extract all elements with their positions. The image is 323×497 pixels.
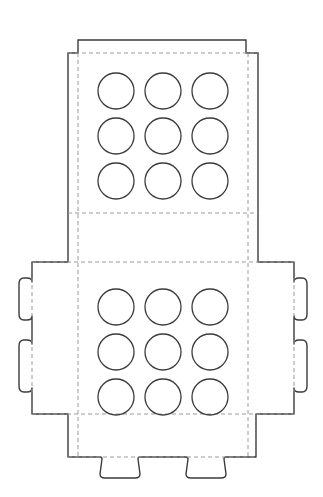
base-panel <box>19 212 307 478</box>
hole-base-r2c2 <box>145 334 181 370</box>
hole-top-r3c3 <box>192 163 228 199</box>
hole-base-r1c3 <box>192 289 228 325</box>
hole-top-r2c2 <box>145 118 181 154</box>
base-outline-with-side-tabs <box>19 212 307 478</box>
hole-base-r1c2 <box>145 289 181 325</box>
dieline-canvas <box>0 0 323 497</box>
hole-top-r3c1 <box>98 163 134 199</box>
hole-top-r1c1 <box>98 73 134 109</box>
base-hole-grid <box>98 289 228 415</box>
hole-base-r3c2 <box>145 379 181 415</box>
fold-lines <box>32 53 294 457</box>
hole-top-r2c1 <box>98 118 134 154</box>
top-lid-outline <box>68 40 258 212</box>
hole-base-r2c1 <box>98 334 134 370</box>
hole-top-r1c2 <box>145 73 181 109</box>
dieline-drawing <box>0 0 323 497</box>
hole-top-r3c2 <box>145 163 181 199</box>
hole-base-r3c3 <box>192 379 228 415</box>
hole-top-r1c3 <box>192 73 228 109</box>
hole-top-r2c3 <box>192 118 228 154</box>
hole-base-r2c3 <box>192 334 228 370</box>
top-lid-hole-grid <box>98 73 228 199</box>
top-lid-panel <box>68 40 258 212</box>
hole-base-r1c1 <box>98 289 134 325</box>
hole-base-r3c1 <box>98 379 134 415</box>
